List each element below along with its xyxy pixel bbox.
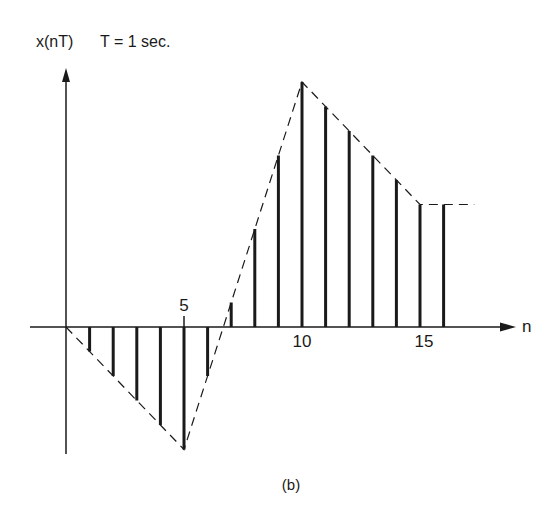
x-axis-arrow-icon bbox=[500, 323, 516, 332]
stems bbox=[90, 82, 444, 450]
stem-plot: x(nT) T = 1 sec. n 5 10 15 (b) bbox=[0, 0, 555, 519]
figure-caption: (b) bbox=[282, 476, 300, 493]
tick-label-10: 10 bbox=[293, 332, 312, 351]
tick-label-15: 15 bbox=[415, 332, 434, 351]
period-note: T = 1 sec. bbox=[100, 33, 170, 50]
y-axis-arrow-icon bbox=[62, 68, 70, 82]
y-axis-label: x(nT) bbox=[36, 33, 73, 50]
dashed-envelope bbox=[66, 82, 474, 450]
tick-label-5: 5 bbox=[179, 296, 188, 315]
x-axis-label: n bbox=[522, 317, 531, 336]
